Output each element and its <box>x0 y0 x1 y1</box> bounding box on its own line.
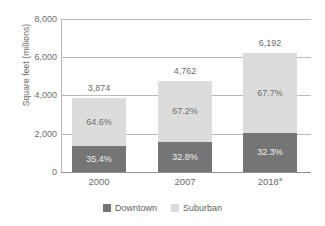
legend-swatch-suburban <box>171 204 179 212</box>
bar-segment-downtown[interactable]: 32.3% <box>243 133 297 172</box>
y-axis-line <box>61 19 62 173</box>
bar-total-label: 3,874 <box>60 83 138 93</box>
y-tick-label: 4,000 <box>9 90 57 100</box>
legend-label-suburban: Suburban <box>183 203 222 213</box>
bar-segment-percent-label: 64.6% <box>86 118 112 127</box>
bar-group-2000[interactable]: 3,874 64.6% 35.4% <box>72 98 126 172</box>
bar-segment-suburban[interactable]: 67.7% <box>243 53 297 133</box>
x-tick-label-2007: 2007 <box>146 176 224 187</box>
legend-swatch-downtown <box>103 204 111 212</box>
x-tick-label-text: 2007 <box>174 176 195 187</box>
bar-segment-suburban[interactable]: 64.6% <box>72 98 126 146</box>
legend-item-suburban[interactable]: Suburban <box>171 203 222 213</box>
bar-total-label: 4,762 <box>146 66 224 76</box>
x-tick-label-2000: 2000 <box>60 176 138 187</box>
x-tick-label-2018: 2018a <box>231 176 309 187</box>
y-tick-label: 0 <box>9 167 57 177</box>
legend-item-downtown[interactable]: Downtown <box>103 203 157 213</box>
bar-segment-percent-label: 67.7% <box>257 89 283 98</box>
y-tick-label: 8,000 <box>9 14 57 24</box>
plot-area: 3,874 64.6% 35.4% 4,762 67.2% 32.8% 6,19… <box>61 19 311 172</box>
stacked-bar-chart: Square feet (millions) 8,000 6,000 4,000… <box>0 0 325 226</box>
x-tick-label-text: 2000 <box>88 176 109 187</box>
gridline-8000 <box>61 19 311 20</box>
x-axis-line <box>61 172 311 173</box>
x-tick-label-text: 2018 <box>258 176 279 187</box>
legend-label-downtown: Downtown <box>115 203 157 213</box>
bar-segment-percent-label: 32.8% <box>172 153 198 162</box>
y-tick-label: 6,000 <box>9 52 57 62</box>
bar-segment-percent-label: 32.3% <box>257 148 283 157</box>
bar-segment-suburban[interactable]: 67.2% <box>158 81 212 142</box>
y-tick-label: 2,000 <box>9 129 57 139</box>
bar-group-2018[interactable]: 6,192 67.7% 32.3% <box>243 53 297 172</box>
legend: Downtown Suburban <box>0 203 325 213</box>
bar-segment-percent-label: 35.4% <box>86 155 112 164</box>
bar-segment-downtown[interactable]: 35.4% <box>72 146 126 172</box>
x-tick-label-footnote-marker: a <box>279 176 282 182</box>
bar-total-label: 6,192 <box>231 38 309 48</box>
bar-group-2007[interactable]: 4,762 67.2% 32.8% <box>158 81 212 172</box>
bar-segment-percent-label: 67.2% <box>172 107 198 116</box>
bar-segment-downtown[interactable]: 32.8% <box>158 142 212 172</box>
